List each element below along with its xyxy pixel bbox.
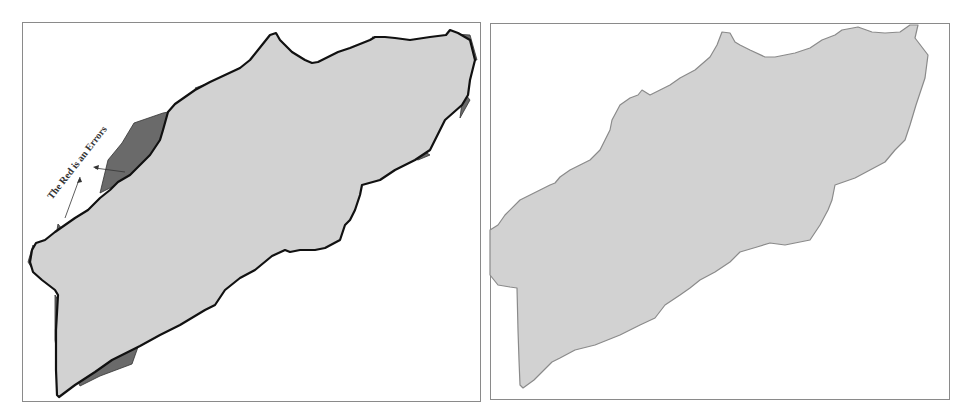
left-watershed-polygon <box>30 30 475 397</box>
figure-canvas: The Red is an Errors <box>0 0 963 414</box>
annotation-label: The Red is an Errors <box>45 124 109 202</box>
right-watershed-polygon <box>490 25 928 388</box>
arrowhead-icon <box>93 165 99 170</box>
